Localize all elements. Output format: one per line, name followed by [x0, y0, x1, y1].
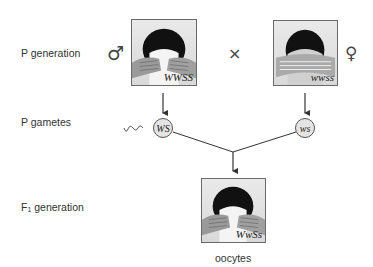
- f1-generation-label: F1 generation: [21, 201, 84, 213]
- p-gametes-label: P gametes: [21, 116, 71, 128]
- female-parent-photo: wwss: [273, 20, 338, 86]
- f1-suffix: generation: [31, 201, 84, 213]
- female-genotype: wwss: [311, 71, 334, 83]
- f1-genotype: WwSs: [236, 228, 262, 240]
- f1-offspring-photo: WwSs: [201, 178, 266, 243]
- cross-symbol-icon: ×: [228, 44, 241, 63]
- male-parent-photo: WWSS: [131, 19, 197, 86]
- female-symbol-icon: ♀: [345, 43, 357, 63]
- p-generation-label: P generation: [21, 47, 80, 59]
- male-symbol-icon: ♂: [107, 42, 124, 64]
- male-gamete: WS: [153, 118, 173, 138]
- oocytes-caption: oocytes: [215, 252, 251, 264]
- female-gamete: ws: [295, 118, 315, 138]
- male-genotype: WWSS: [164, 71, 193, 83]
